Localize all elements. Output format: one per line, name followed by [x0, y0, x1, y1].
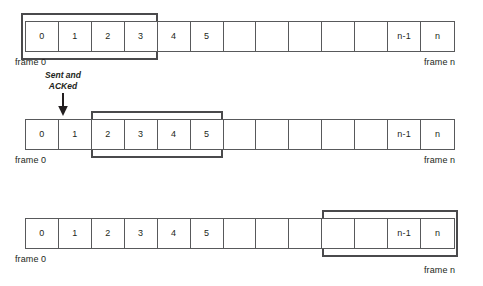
frame-cell	[289, 120, 322, 149]
frame-cell	[256, 219, 289, 248]
frame-cell	[289, 22, 322, 51]
frame-cell	[355, 219, 388, 248]
annotation-line-2: ACKed	[49, 81, 77, 91]
frame-cell: n-1	[388, 22, 421, 51]
frame-cell: 5	[191, 22, 224, 51]
sliding-window-diagram: 0 1 2 3 4 5 n-1 n frame 0 frame n Sent a…	[0, 0, 483, 286]
frame-cell	[322, 120, 355, 149]
frame-cell: 4	[158, 22, 191, 51]
annotation-line-1: Sent and	[45, 70, 81, 80]
frame-cell: 1	[59, 120, 92, 149]
frame-cell: 3	[125, 22, 158, 51]
frame-cell	[224, 22, 257, 51]
frame-first-label-row-3: frame 0	[15, 254, 46, 264]
frame-cell	[224, 219, 257, 248]
frame-cell: n-1	[388, 120, 421, 149]
frame-last-label-row-3: frame n	[424, 265, 455, 275]
frame-cell: 2	[92, 219, 125, 248]
frame-cell: n	[421, 22, 454, 51]
frame-strip-row-3: 0 1 2 3 4 5 n-1 n	[25, 218, 455, 249]
frame-cell: 1	[59, 219, 92, 248]
frame-cell: 1	[59, 22, 92, 51]
frame-strip-row-1: 0 1 2 3 4 5 n-1 n	[25, 21, 455, 52]
frame-cell	[224, 120, 257, 149]
frame-cell: 0	[26, 22, 59, 51]
sent-and-acked-annotation: Sent and ACKed	[36, 70, 90, 92]
frame-cell: 5	[191, 219, 224, 248]
frame-cell: 4	[158, 120, 191, 149]
frame-cell	[256, 22, 289, 51]
frame-cell: n	[421, 219, 454, 248]
frame-cell	[289, 219, 322, 248]
frame-cell: 3	[125, 219, 158, 248]
frame-cell: 2	[92, 22, 125, 51]
frame-cell	[355, 22, 388, 51]
frame-last-label-row-1: frame n	[424, 57, 455, 67]
frame-cell	[256, 120, 289, 149]
frame-cell	[355, 120, 388, 149]
frame-cell: n	[421, 120, 454, 149]
frame-cell: 4	[158, 219, 191, 248]
frame-cell: n-1	[388, 219, 421, 248]
frame-cell	[322, 219, 355, 248]
frame-cell	[322, 22, 355, 51]
frame-cell: 0	[26, 219, 59, 248]
frame-first-label-row-2: frame 0	[15, 155, 46, 165]
frame-cell: 2	[92, 120, 125, 149]
frame-cell: 0	[26, 120, 59, 149]
frame-first-label-row-1: frame 0	[15, 57, 46, 67]
frame-cell: 5	[191, 120, 224, 149]
frame-last-label-row-2: frame n	[424, 155, 455, 165]
frame-cell: 3	[125, 120, 158, 149]
down-arrow-icon	[55, 93, 71, 117]
frame-strip-row-2: 0 1 2 3 4 5 n-1 n	[25, 119, 455, 150]
